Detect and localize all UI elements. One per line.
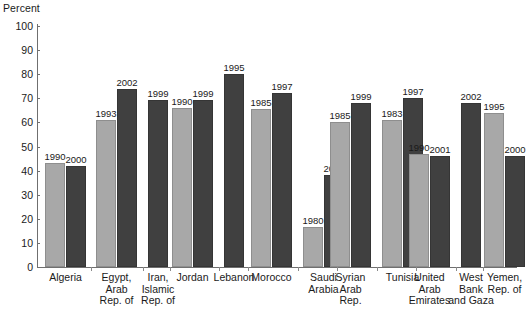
y-axis-tick-label: 0 <box>3 261 33 273</box>
bar <box>484 113 504 267</box>
x-axis-line <box>37 267 517 268</box>
y-axis-tick-label: 30 <box>3 189 33 201</box>
bar-value-label: 1980 <box>300 215 326 226</box>
bar <box>303 227 323 267</box>
y-axis-tick-label: 40 <box>3 165 33 177</box>
bar <box>351 103 371 267</box>
y-axis-tick-label: 50 <box>3 141 33 153</box>
bar <box>193 100 213 267</box>
bar <box>148 100 168 267</box>
y-axis-tick-label: 100 <box>3 20 33 32</box>
bar-value-label: 1985 <box>327 110 353 121</box>
bar-value-label: 2000 <box>502 144 528 155</box>
x-axis-category-separator <box>143 267 144 271</box>
x-axis-category-separator <box>456 267 457 271</box>
bar <box>251 109 271 267</box>
bar-value-label: 1983 <box>379 108 405 119</box>
bar <box>45 163 65 267</box>
bar <box>272 93 292 267</box>
bar-value-label: 1985 <box>248 97 274 108</box>
x-axis-category-separator <box>170 267 171 271</box>
bar <box>330 122 350 267</box>
x-axis-category-separator <box>483 267 484 271</box>
y-axis-tick-label: 90 <box>3 44 33 56</box>
bar-value-label: 1999 <box>348 91 374 102</box>
y-axis-tick-label: 10 <box>3 237 33 249</box>
x-axis-category-separator <box>377 267 378 271</box>
bar-value-label: 1997 <box>400 86 426 97</box>
x-axis-category-separator <box>298 267 299 271</box>
y-axis-tick-label: 20 <box>3 213 33 225</box>
x-axis-category-label: Yemen, Rep. of <box>472 272 530 295</box>
bar-value-label: 1995 <box>221 62 247 73</box>
bar <box>461 103 481 267</box>
y-axis-tick-label: 60 <box>3 116 33 128</box>
y-axis-tick-label: 70 <box>3 92 33 104</box>
bar-value-label: 2001 <box>427 144 453 155</box>
bar-value-label: 2002 <box>114 77 140 88</box>
bar <box>505 156 525 267</box>
x-axis-category-separator <box>91 267 92 271</box>
y-axis-tick-label: 80 <box>3 68 33 80</box>
bar <box>172 108 192 267</box>
bar-value-label: 1999 <box>190 88 216 99</box>
bar <box>224 74 244 267</box>
y-axis-line <box>37 24 38 268</box>
bar <box>430 156 450 267</box>
bar <box>96 120 116 267</box>
bar <box>382 120 402 267</box>
bar <box>117 89 137 267</box>
y-axis-tick-labels: 1009080706050403020100 <box>0 0 33 314</box>
bar-value-label: 1999 <box>145 88 171 99</box>
bar-value-label: 1993 <box>93 108 119 119</box>
bar-value-label: 2000 <box>63 154 89 165</box>
bar-value-label: 1997 <box>269 81 295 92</box>
bar <box>409 154 429 267</box>
bar-value-label: 1995 <box>481 101 507 112</box>
bar <box>66 166 86 267</box>
